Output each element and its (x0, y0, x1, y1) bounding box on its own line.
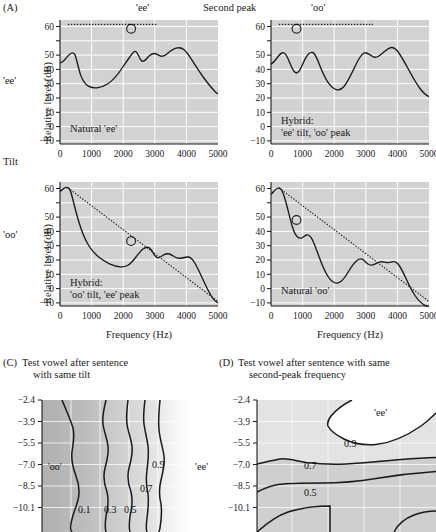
svg-text:−10: −10 (250, 136, 265, 146)
svg-text:50: 50 (256, 212, 266, 222)
x-tick-labels: 010002000 300040005000 (58, 311, 228, 321)
plot-caption-line-1: Hybrid: (281, 115, 314, 126)
svg-text:3000: 3000 (145, 149, 164, 159)
svg-text:4000: 4000 (177, 311, 196, 321)
panel-c-letter: (C) (3, 357, 17, 368)
svg-text:30: 30 (256, 241, 266, 251)
svg-text:10: 10 (45, 108, 55, 118)
plot-caption: Natural 'ee' (70, 123, 117, 134)
plot-top-right: 605040 302010 0−10 010002000 30004000500… (256, 16, 436, 166)
plot-panel-c: −2.4−3.9−5.5 −7.0−8.5−10.1 'oo' 'ee' 0.1… (0, 388, 220, 532)
panel-a-letter: (A) (3, 2, 18, 13)
svg-text:5000: 5000 (209, 311, 228, 321)
svg-text:1000: 1000 (293, 149, 312, 159)
panel-d-title-line-1: Test vowel after sentence with same (238, 357, 390, 369)
svg-text:4000: 4000 (177, 149, 196, 159)
panel-a-row-header-ee: 'ee' (3, 75, 16, 86)
svg-text:0: 0 (49, 122, 54, 132)
svg-text:3000: 3000 (356, 149, 375, 159)
panel-c-title-line-1: Test vowel after sentence (22, 357, 128, 369)
region-label-ee: 'ee' (374, 407, 387, 418)
svg-text:0: 0 (260, 122, 265, 132)
svg-text:−10: −10 (39, 298, 54, 308)
svg-text:0: 0 (269, 149, 274, 159)
y-ticks (38, 400, 42, 508)
svg-text:0: 0 (269, 311, 274, 321)
svg-text:−8.5: −8.5 (233, 481, 250, 491)
svg-text:20: 20 (45, 255, 55, 265)
svg-text:−3.9: −3.9 (233, 417, 250, 427)
svg-text:−5.5: −5.5 (18, 438, 35, 448)
svg-text:60: 60 (45, 184, 55, 194)
svg-text:−3.9: −3.9 (18, 417, 35, 427)
panel-a-row-header-oo: 'oo' (3, 229, 17, 240)
svg-text:20: 20 (256, 93, 266, 103)
svg-text:2000: 2000 (325, 149, 344, 159)
svg-text:2000: 2000 (114, 311, 133, 321)
panel-a-column-header-ee: 'ee' (136, 2, 149, 13)
x-axis-title: Frequency (Hz) (317, 329, 384, 341)
y-ticks (267, 189, 271, 303)
svg-text:40: 40 (256, 65, 266, 75)
plot-caption-line-1: Hybrid: (70, 277, 103, 288)
svg-text:2000: 2000 (325, 311, 344, 321)
contour-label-0-9: 0.9 (344, 438, 357, 449)
contour-label-0-5: 0.5 (124, 504, 137, 515)
contour-label-0-5: 0.5 (304, 487, 317, 498)
panel-d-letter: (D) (219, 357, 234, 368)
region-label-oo: 'oo' (48, 461, 62, 472)
svg-text:−2.4: −2.4 (233, 395, 250, 405)
region-label-ee: 'ee' (195, 461, 208, 472)
svg-text:10: 10 (256, 108, 266, 118)
svg-text:−5.5: −5.5 (233, 438, 250, 448)
panel-a-column-header-oo: 'oo' (311, 2, 325, 13)
svg-text:60: 60 (45, 22, 55, 32)
svg-text:0: 0 (58, 311, 63, 321)
y-ticks (267, 27, 271, 141)
x-axis-title: Frequency (Hz) (106, 329, 173, 341)
svg-text:3000: 3000 (145, 311, 164, 321)
svg-text:60: 60 (256, 184, 266, 194)
svg-text:−2.4: −2.4 (18, 395, 35, 405)
svg-text:1000: 1000 (293, 311, 312, 321)
svg-text:0: 0 (58, 149, 63, 159)
contour-label-0-7: 0.7 (304, 460, 317, 471)
svg-text:40: 40 (256, 227, 266, 237)
svg-text:4000: 4000 (388, 149, 407, 159)
svg-text:60: 60 (256, 22, 266, 32)
svg-text:30: 30 (45, 241, 55, 251)
svg-text:−10.1: −10.1 (228, 503, 250, 513)
svg-text:−10: −10 (39, 136, 54, 146)
svg-text:−10.1: −10.1 (13, 503, 35, 513)
svg-text:−10: −10 (250, 298, 265, 308)
plot-top-left: 6050 4030 2010 0−10 010002000 3000400050… (45, 16, 225, 166)
panel-c-title-line-2: with same tilt (33, 369, 90, 381)
svg-text:50: 50 (45, 212, 55, 222)
panel-a-ylabel-bottom: Relative level (dB) (31, 180, 45, 305)
contour-bands (257, 400, 436, 464)
y-tick-labels: 605040 302010 0−10 (250, 22, 265, 146)
plot-caption-line-2: 'oo' tilt, 'ee' peak (70, 289, 140, 300)
svg-text:4000: 4000 (388, 311, 407, 321)
y-tick-labels: −2.4−3.9−5.5 −7.0−8.5−10.1 (13, 395, 35, 513)
y-tick-labels: 605040 302010 0−10 (250, 184, 265, 308)
x-tick-labels: 010002000 300040005000 (58, 149, 228, 159)
svg-text:0: 0 (49, 284, 54, 294)
svg-text:50: 50 (45, 50, 55, 60)
plot-bottom-right: 605040 302010 0−10 010002000 30004000500… (256, 178, 436, 343)
svg-text:30: 30 (256, 79, 266, 89)
svg-text:2000: 2000 (114, 149, 133, 159)
plot-bottom-left: 605040 302010 0−10 010002000 30004000500… (45, 178, 225, 343)
contour-label-0-9: 0.9 (152, 459, 165, 470)
svg-text:−8.5: −8.5 (18, 481, 35, 491)
svg-text:40: 40 (45, 65, 55, 75)
panel-a-ylabel-top: Relative level (dB) (31, 18, 45, 143)
panel-a-row-header-tilt: Tilt (3, 156, 18, 167)
svg-text:20: 20 (256, 255, 266, 265)
svg-text:10: 10 (45, 270, 55, 280)
contour-label-0-7: 0.7 (140, 483, 153, 494)
x-tick-labels: 010002000 300040005000 (269, 149, 436, 159)
svg-text:5000: 5000 (420, 149, 436, 159)
svg-text:5000: 5000 (209, 149, 228, 159)
panel-d-title-line-2: second-peak frequency (249, 369, 346, 381)
